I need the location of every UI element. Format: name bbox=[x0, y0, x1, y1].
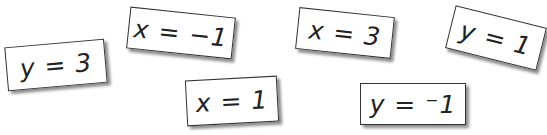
equation-label: y = 1 bbox=[457, 15, 534, 61]
equation-label: y = 3 bbox=[19, 47, 94, 82]
equation-label: y = ⁻1 bbox=[370, 90, 457, 119]
equation-card-x-1[interactable]: x = 1 bbox=[185, 76, 279, 127]
equation-label: x = −1 bbox=[132, 14, 229, 53]
equation-card-y-3[interactable]: y = 3 bbox=[4, 39, 107, 92]
equation-label: x = 3 bbox=[307, 15, 382, 51]
equation-card-x-3[interactable]: x = 3 bbox=[295, 7, 395, 59]
equation-label: x = 1 bbox=[195, 85, 269, 118]
equation-card-x-neg1[interactable]: x = −1 bbox=[126, 7, 236, 60]
equation-card-y-neg1[interactable]: y = ⁻1 bbox=[360, 83, 466, 125]
equation-card-y-1[interactable]: y = 1 bbox=[445, 5, 547, 70]
